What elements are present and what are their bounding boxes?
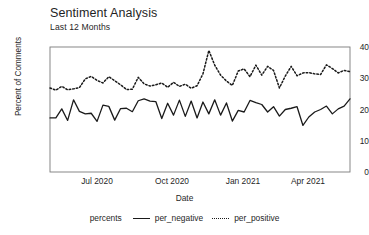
legend-label-per-positive: per_positive [234,213,279,223]
solid-line-icon [133,218,150,219]
legend-label-per-negative: per_negative [155,213,203,223]
chart-figure: Sentiment Analysis Last 12 Months Percen… [0,0,369,235]
plot-area [0,0,369,235]
legend-title: percents [90,213,122,223]
legend-item-per-negative[interactable]: per_negative [133,213,203,223]
dotted-line-icon [212,218,229,219]
legend-item-per-positive[interactable]: per_positive [212,213,279,223]
chart-legend: percents per_negative per_positive [0,213,369,223]
